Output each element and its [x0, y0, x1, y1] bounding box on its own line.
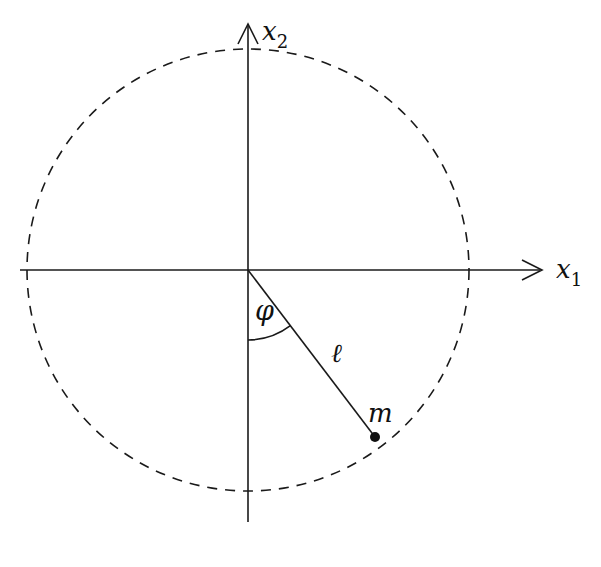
x1-axis-label: x1 [556, 254, 582, 290]
angle-label: φ [255, 295, 274, 326]
mass-label: m [368, 398, 393, 428]
pendulum-diagram: x2 x1 φ ℓ m [0, 0, 601, 567]
x2-axis-label: x2 [262, 16, 288, 52]
mass-point [370, 432, 380, 442]
angle-arc [248, 326, 290, 340]
length-label: ℓ [331, 338, 342, 368]
